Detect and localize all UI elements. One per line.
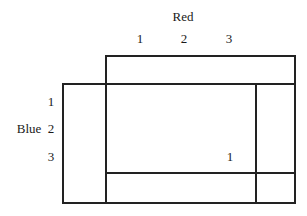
row-label-1: 1: [48, 95, 55, 108]
top-box-top-edge: [105, 55, 296, 57]
right-edge: [294, 55, 296, 204]
column-label-3: 3: [226, 32, 233, 45]
bottom-edge: [62, 202, 296, 204]
row-box-top-edge: [62, 83, 296, 85]
row-box-left-edge: [62, 83, 64, 204]
row-player-label: Blue: [17, 122, 42, 135]
row-label-2: 2: [48, 122, 55, 135]
row-label-3: 3: [48, 150, 55, 163]
column-label-2: 2: [181, 32, 188, 45]
inner-horizontal-divider: [105, 172, 296, 174]
column-player-label: Red: [173, 10, 194, 23]
top-box-left-edge: [105, 55, 107, 204]
cell-value-r3-c3: 1: [227, 150, 234, 163]
column-label-1: 1: [137, 32, 144, 45]
inner-vertical-divider: [255, 83, 257, 204]
